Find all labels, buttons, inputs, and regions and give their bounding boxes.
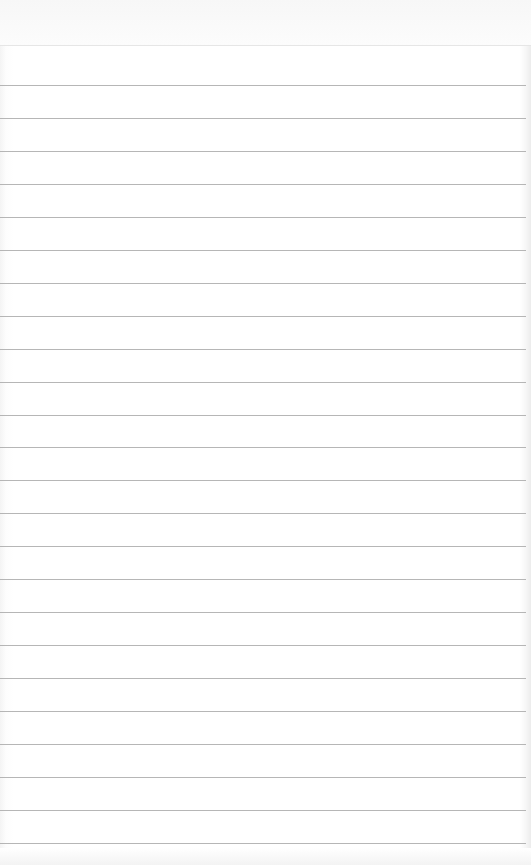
ruled-line bbox=[0, 711, 526, 712]
ruled-line bbox=[0, 843, 526, 844]
ruled-line bbox=[0, 678, 526, 679]
ruled-line bbox=[0, 316, 526, 317]
ruled-line bbox=[0, 217, 526, 218]
ruled-line bbox=[0, 85, 526, 86]
ruled-line bbox=[0, 447, 526, 448]
ruled-line bbox=[0, 184, 526, 185]
ruled-line bbox=[0, 810, 526, 811]
ruled-line bbox=[0, 579, 526, 580]
ruled-line bbox=[0, 546, 526, 547]
ruled-line bbox=[0, 382, 526, 383]
notepad-page[interactable] bbox=[0, 0, 531, 865]
ruled-line bbox=[0, 777, 526, 778]
ruled-line bbox=[0, 513, 526, 514]
page-bottom-edge bbox=[0, 848, 531, 865]
ruled-line bbox=[0, 349, 526, 350]
ruled-line bbox=[0, 480, 526, 481]
ruled-line bbox=[0, 415, 526, 416]
page-header-area bbox=[0, 0, 531, 45]
ruled-line bbox=[0, 151, 526, 152]
ruled-line bbox=[0, 250, 526, 251]
ruled-line bbox=[0, 118, 526, 119]
ruled-line bbox=[0, 645, 526, 646]
ruled-line bbox=[0, 744, 526, 745]
ruled-line bbox=[0, 283, 526, 284]
header-divider bbox=[0, 45, 531, 46]
ruled-line bbox=[0, 612, 526, 613]
